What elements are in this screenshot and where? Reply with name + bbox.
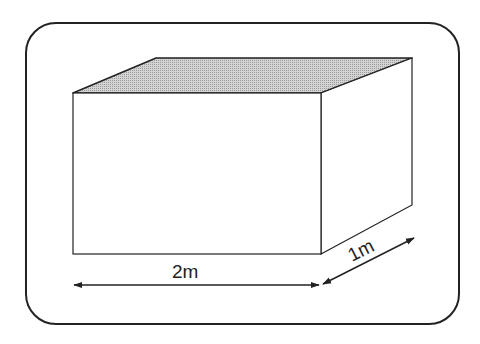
prism-diagram: 2m 1m — [0, 0, 480, 344]
prism-side-face — [321, 58, 412, 254]
prism-front-face — [73, 93, 321, 254]
length-label: 2m — [172, 261, 198, 282]
